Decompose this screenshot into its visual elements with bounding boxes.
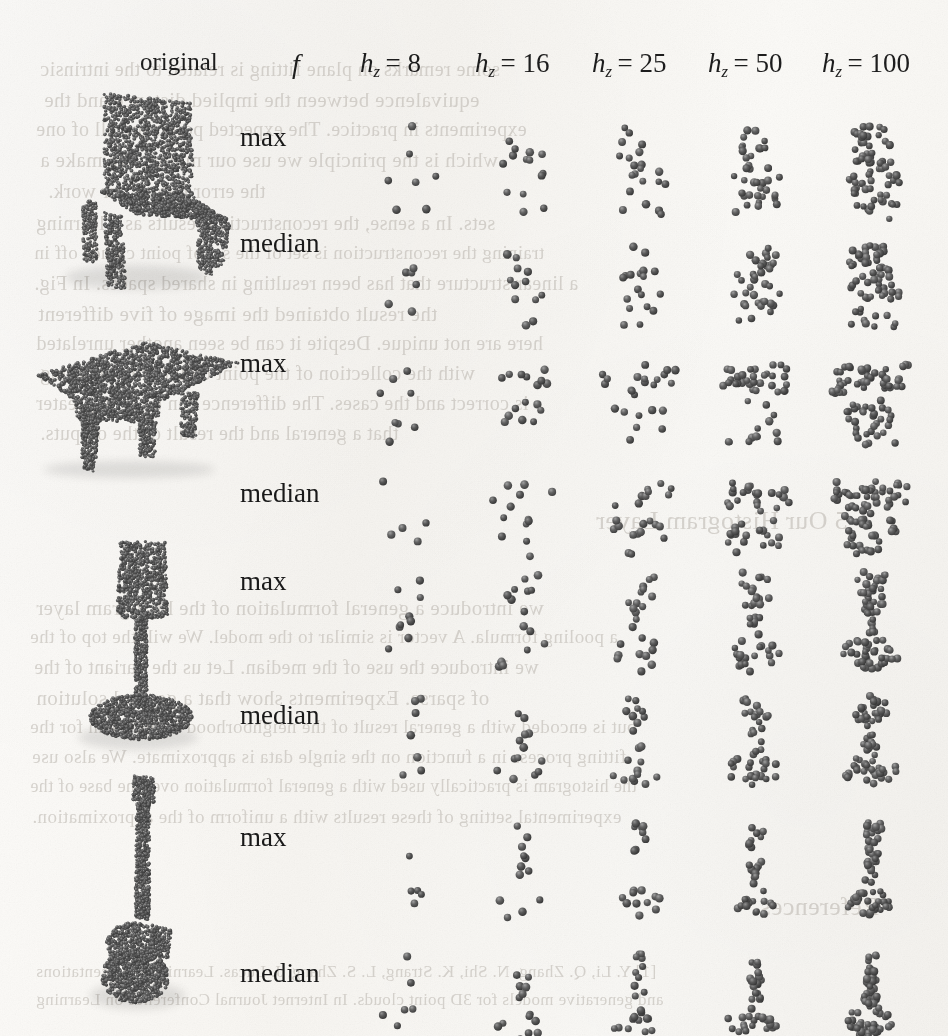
original-point-cloud-table <box>26 330 241 480</box>
row-label-median-0: median <box>240 228 319 259</box>
point-cluster-hz8-row7 <box>352 948 464 1036</box>
point-cluster-hz100-row3 <box>816 466 928 566</box>
original-point-cloud-chair <box>50 82 230 292</box>
point-cluster-hz25-row2 <box>584 346 696 458</box>
point-cluster-hz50-row0 <box>700 120 812 228</box>
point-cluster-hz16-row3 <box>468 466 580 566</box>
column-header-hz25: hz = 25 <box>592 48 666 82</box>
point-cluster-hz50-row3 <box>700 466 812 566</box>
point-cluster-hz100-row4 <box>816 566 928 684</box>
row-label-max-2: max <box>240 566 287 597</box>
column-header-hz50: hz = 50 <box>708 48 782 82</box>
column-header-original: original <box>140 48 218 76</box>
point-cluster-hz25-row3 <box>584 466 696 566</box>
point-cluster-hz8-row2 <box>352 346 464 458</box>
point-cluster-hz100-row0 <box>816 120 928 228</box>
point-cloud-figure: originalfhz = 8hz = 16hz = 25hz = 50hz =… <box>0 0 948 1036</box>
column-header-f: f <box>292 48 300 80</box>
point-cluster-hz16-row5 <box>468 690 580 798</box>
row-label-median-2: median <box>240 700 319 731</box>
point-cluster-hz16-row2 <box>468 346 580 458</box>
point-cluster-hz16-row7 <box>468 948 580 1036</box>
point-cluster-hz100-row7 <box>816 948 928 1036</box>
point-cluster-hz25-row6 <box>584 818 696 930</box>
point-cluster-hz100-row1 <box>816 238 928 338</box>
point-cluster-hz16-row0 <box>468 120 580 228</box>
point-cluster-hz50-row5 <box>700 690 812 798</box>
point-cluster-hz50-row4 <box>700 566 812 684</box>
point-cluster-hz25-row7 <box>584 948 696 1036</box>
column-header-hz100: hz = 100 <box>822 48 910 82</box>
row-label-median-3: median <box>240 958 319 989</box>
point-cluster-hz8-row0 <box>352 120 464 228</box>
point-cluster-hz25-row5 <box>584 690 696 798</box>
point-cluster-hz50-row2 <box>700 346 812 458</box>
point-cluster-hz100-row5 <box>816 690 928 798</box>
column-header-hz16: hz = 16 <box>475 48 549 82</box>
point-cluster-hz50-row7 <box>700 948 812 1036</box>
point-cluster-hz16-row6 <box>468 818 580 930</box>
original-point-cloud-lamp <box>66 528 216 753</box>
point-cluster-hz50-row1 <box>700 238 812 338</box>
point-cluster-hz25-row1 <box>584 238 696 338</box>
original-point-cloud-guitar <box>80 768 200 1013</box>
row-label-median-1: median <box>240 478 319 509</box>
row-label-max-3: max <box>240 822 287 853</box>
point-cluster-hz100-row6 <box>816 818 928 930</box>
point-cluster-hz100-row2 <box>816 346 928 458</box>
point-cluster-hz25-row0 <box>584 120 696 228</box>
point-cluster-hz16-row4 <box>468 566 580 684</box>
column-header-hz8: hz = 8 <box>360 48 421 82</box>
point-cluster-hz8-row5 <box>352 690 464 798</box>
row-label-max-1: max <box>240 348 287 379</box>
point-cluster-hz8-row4 <box>352 566 464 684</box>
row-label-max-0: max <box>240 122 287 153</box>
point-cluster-hz8-row6 <box>352 818 464 930</box>
point-cluster-hz25-row4 <box>584 566 696 684</box>
point-cluster-hz8-row3 <box>352 466 464 566</box>
point-cluster-hz8-row1 <box>352 238 464 338</box>
point-cluster-hz50-row6 <box>700 818 812 930</box>
point-cluster-hz16-row1 <box>468 238 580 338</box>
